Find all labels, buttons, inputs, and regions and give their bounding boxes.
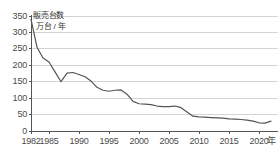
y-tick-label: 150 bbox=[13, 77, 27, 86]
axis-tick-marks bbox=[29, 16, 260, 134]
x-tick-label: 2000 bbox=[126, 137, 152, 146]
x-tick-label: 1990 bbox=[66, 137, 92, 146]
y-tick-label: 350 bbox=[13, 12, 27, 21]
y-tick-label: 250 bbox=[13, 44, 27, 53]
series-label-line-1: 販売台数 bbox=[33, 11, 65, 22]
x-tick-label: 2010 bbox=[186, 137, 212, 146]
data-series-line bbox=[31, 19, 271, 123]
x-tick-label: 2015 bbox=[216, 137, 242, 146]
x-axis-unit-label: 年 bbox=[267, 137, 276, 146]
series-label-line-2: 万台 / 年 bbox=[33, 22, 65, 33]
y-tick-label: 50 bbox=[17, 110, 27, 119]
y-tick-label: 300 bbox=[13, 28, 27, 37]
x-tick-label: 1985 bbox=[36, 137, 62, 146]
y-tick-label: 0 bbox=[22, 127, 27, 136]
series-label: 販売台数 万台 / 年 bbox=[33, 11, 65, 32]
line-chart: 050100150200250300350 198219851990199520… bbox=[0, 0, 280, 156]
x-tick-label: 2005 bbox=[156, 137, 182, 146]
x-tick-label: 1995 bbox=[96, 137, 122, 146]
y-tick-label: 100 bbox=[13, 94, 27, 103]
y-tick-label: 200 bbox=[13, 61, 27, 70]
